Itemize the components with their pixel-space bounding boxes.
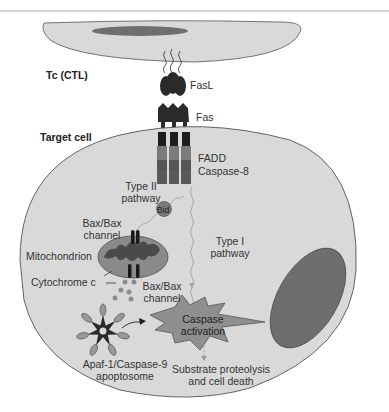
caspase8-label: Caspase-8: [198, 165, 249, 177]
bax-top-line2: channel: [80, 229, 124, 241]
cytochrome-c-text: Cytochrome c: [31, 276, 96, 288]
caspase-line2: activation: [178, 325, 228, 337]
mitochondrion-label: Mitochondrion: [26, 250, 92, 262]
cell-death-label: Substrate proteolysis and cell death: [166, 363, 276, 387]
cytochrome-c-label: Cytochrome c: [31, 276, 96, 288]
apaf-line2: apoptosome: [80, 370, 170, 382]
caspase-activation-label: Caspase activation: [178, 313, 228, 337]
bax-bottom-line2: channel: [140, 292, 184, 304]
apoptosis-diagram: Tc (CTL) Target cell FasL Fas FADD Caspa…: [0, 0, 389, 412]
type2-line2: pathway: [120, 192, 162, 204]
bax-bottom-line1: Bax/Bax: [140, 280, 184, 292]
tc-cell-label: Tc (CTL): [46, 69, 88, 81]
fas-label: Fas: [196, 111, 214, 123]
type2-pathway-label: Type II pathway: [120, 180, 162, 204]
bax-top-line1: Bax/Bax: [80, 217, 124, 229]
fasl-trimer: [160, 72, 186, 96]
apaf-line1: Apaf-1/Caspase-9: [80, 358, 170, 370]
type2-line1: Type II: [120, 180, 162, 192]
type1-line2: pathway: [208, 247, 252, 259]
death-line1: Substrate proteolysis: [166, 363, 276, 375]
caspase-line1: Caspase: [178, 313, 228, 325]
death-line2: and cell death: [166, 375, 276, 387]
bid-label: Bid: [157, 204, 169, 216]
bax-channel-bottom-label: Bax/Bax channel: [140, 280, 184, 304]
apoptosome-label: Apaf-1/Caspase-9 apoptosome: [80, 358, 170, 382]
type1-pathway-label: Type I pathway: [208, 235, 252, 259]
bax-channel-top-label: Bax/Bax channel: [80, 217, 124, 241]
fadd-caspase8-complex: [157, 132, 191, 184]
fadd-label: FADD: [198, 152, 226, 164]
target-cell-label: Target cell: [40, 131, 92, 143]
type1-line1: Type I: [208, 235, 252, 247]
tc-nucleus: [92, 26, 188, 36]
fasl-label: FasL: [190, 79, 213, 91]
diagram-canvas: [0, 0, 389, 412]
tc-cell: [43, 21, 301, 62]
